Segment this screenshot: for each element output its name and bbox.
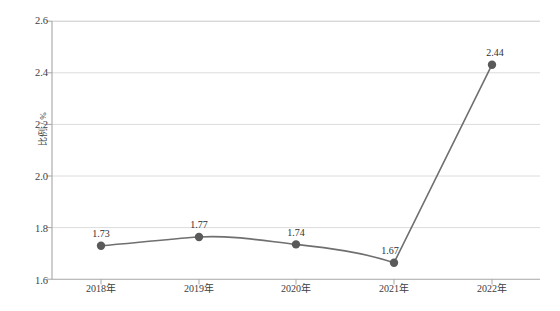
- x-axis-tick-labels: 2018年 2019年 2020年 2021年 2022年: [0, 283, 560, 299]
- x-tick-label: 2022年: [477, 283, 507, 295]
- x-tick-label: 2018年: [86, 283, 116, 295]
- data-point-label: 1.73: [92, 228, 110, 239]
- data-point-labels: 1.73 1.77 1.74 1.67 2.44: [0, 0, 560, 311]
- x-tick-label: 2021年: [379, 283, 409, 295]
- line-chart: 比例 / % 2.6 2.4 2.2 2.0 1.8 1.6: [0, 0, 560, 311]
- data-point-label: 1.67: [381, 245, 399, 256]
- x-tick-label: 2020年: [281, 283, 311, 295]
- data-point-label: 1.74: [287, 227, 305, 238]
- data-point-label: 1.77: [190, 219, 208, 230]
- x-tick-label: 2019年: [184, 283, 214, 295]
- data-point-label: 2.44: [486, 47, 504, 58]
